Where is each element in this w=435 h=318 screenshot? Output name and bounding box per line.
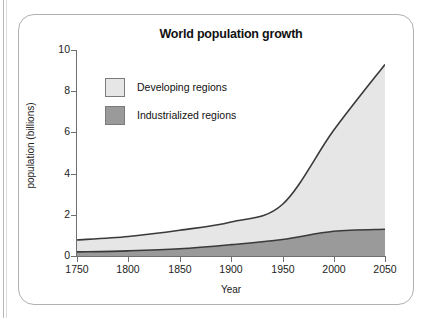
x-tick-label-1800: 1800 xyxy=(105,263,151,275)
x-tick-2000 xyxy=(334,257,335,262)
y-tick-label-0: 0 xyxy=(44,249,70,261)
y-tick-label-10: 10 xyxy=(44,43,70,55)
x-tick-1800 xyxy=(128,257,129,262)
y-tick-label-6: 6 xyxy=(44,125,70,137)
y-tick-label-2: 2 xyxy=(44,208,70,220)
x-tick-label-1750: 1750 xyxy=(54,263,100,275)
legend-swatch-developing-regions xyxy=(105,78,125,97)
x-tick-2050 xyxy=(385,257,386,262)
y-tick-8 xyxy=(71,91,76,92)
x-tick-1850 xyxy=(180,257,181,262)
legend-item-industrialized-regions: Industrialized regions xyxy=(105,104,236,126)
y-axis-label: population (billions) xyxy=(25,76,36,216)
y-tick-label-4: 4 xyxy=(44,167,70,179)
legend-label-industrialized-regions: Industrialized regions xyxy=(137,109,236,121)
chart-legend: Developing regions Industrialized region… xyxy=(105,76,236,132)
legend-label-developing-regions: Developing regions xyxy=(137,81,227,93)
x-tick-1950 xyxy=(283,257,284,262)
x-axis-label: Year xyxy=(77,284,385,295)
legend-swatch-industrialized-regions xyxy=(105,106,125,125)
y-tick-4 xyxy=(71,174,76,175)
x-tick-label-2050: 2050 xyxy=(362,263,408,275)
y-tick-label-8: 8 xyxy=(44,84,70,96)
y-tick-10 xyxy=(71,50,76,51)
y-tick-2 xyxy=(71,215,76,216)
chart-title: World population growth xyxy=(77,27,385,41)
y-tick-6 xyxy=(71,132,76,133)
x-tick-label-1950: 1950 xyxy=(260,263,306,275)
legend-item-developing-regions: Developing regions xyxy=(105,76,236,98)
y-tick-0 xyxy=(71,256,76,257)
population-area-chart: World population growth population (bill… xyxy=(0,0,435,318)
x-tick-1900 xyxy=(231,257,232,262)
x-tick-label-1850: 1850 xyxy=(157,263,203,275)
x-tick-label-2000: 2000 xyxy=(311,263,357,275)
x-tick-1750 xyxy=(77,257,78,262)
x-tick-label-1900: 1900 xyxy=(208,263,254,275)
